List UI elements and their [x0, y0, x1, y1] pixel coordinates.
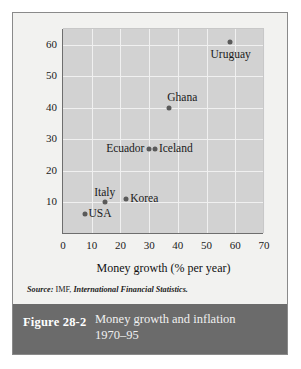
- gridline-horizontal: [63, 108, 263, 109]
- source-publisher: IMF,: [55, 285, 71, 294]
- data-point: [102, 200, 107, 205]
- figure-number: Figure 28-2: [23, 315, 86, 329]
- x-tick-label: 50: [201, 240, 212, 251]
- x-axis-line: [62, 233, 263, 234]
- x-tick-label: 20: [115, 240, 126, 251]
- data-point-label: Ghana: [167, 92, 197, 104]
- gridline-horizontal: [63, 139, 263, 140]
- y-tick-label: 30: [37, 133, 57, 144]
- data-point: [124, 197, 129, 202]
- data-point-label: USA: [89, 208, 112, 220]
- data-point: [167, 105, 172, 110]
- data-point-label: Ecuador: [106, 143, 144, 155]
- plot-area: UruguayGhanaIcelandEcuadorKoreaItalyUSA: [63, 28, 264, 233]
- data-point-label: Korea: [130, 193, 158, 205]
- figure-title-line1: Money growth and inflation: [95, 312, 236, 328]
- data-point-label: Italy: [94, 187, 115, 199]
- y-tick-label: 10: [37, 196, 57, 207]
- gridline-horizontal: [63, 45, 263, 46]
- y-tick-label: 50: [37, 70, 57, 81]
- x-tick-label: 0: [60, 240, 66, 251]
- data-point-label: Uruguay: [211, 49, 251, 61]
- gridline-horizontal: [63, 202, 263, 203]
- x-tick-label: 10: [86, 240, 97, 251]
- data-point: [82, 211, 87, 216]
- chart-card: Inflation (% per year) 102030405060 Urug…: [13, 13, 287, 304]
- data-point-label: Iceland: [159, 143, 193, 155]
- data-point: [152, 146, 157, 151]
- figure-caption-bar: Figure 28-2 Money growth and inflation 1…: [13, 304, 287, 354]
- x-tick-label: 40: [172, 240, 183, 251]
- x-tick-label: 30: [144, 240, 155, 251]
- source-prefix: Source:: [27, 285, 53, 294]
- figure-title-line2: 1970–95: [95, 328, 236, 344]
- y-tick-label: 40: [37, 101, 57, 112]
- gridline-horizontal: [63, 171, 263, 172]
- data-point: [227, 39, 232, 44]
- y-tick-label: 60: [37, 38, 57, 49]
- gridline-horizontal: [63, 76, 263, 77]
- source-note: Source: IMF, International Financial Sta…: [27, 285, 188, 294]
- source-title: International Financial Statistics.: [73, 285, 187, 294]
- figure-title: Money growth and inflation 1970–95: [95, 312, 236, 343]
- figure-frame: Inflation (% per year) 102030405060 Urug…: [12, 12, 288, 355]
- x-tick-label: 60: [230, 240, 241, 251]
- gridline-vertical: [264, 29, 265, 233]
- x-axis-label: Money growth (% per year): [63, 261, 264, 276]
- data-point: [147, 146, 152, 151]
- x-tick-label: 70: [259, 240, 270, 251]
- y-tick-label: 20: [37, 164, 57, 175]
